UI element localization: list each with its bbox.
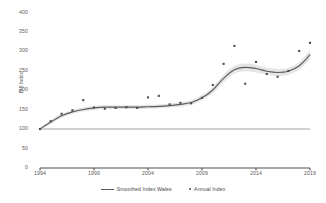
legend-item-annual: Annual Index <box>189 186 226 192</box>
data-point <box>244 83 246 85</box>
line-marker-icon <box>101 189 114 190</box>
data-point <box>233 45 235 47</box>
chart-legend: Smoothed Index Wales Annual Index <box>0 186 326 192</box>
chart-container: BIS Index 400 350 300 250 200 150 100 50… <box>0 0 326 203</box>
data-point <box>39 128 41 130</box>
legend-item-smoothed: Smoothed Index Wales <box>101 186 172 192</box>
data-point <box>147 96 149 98</box>
confidence-band <box>40 50 310 130</box>
data-point <box>61 113 63 115</box>
data-point <box>277 76 279 78</box>
annual-index-points <box>39 42 311 130</box>
data-point <box>82 99 84 101</box>
data-point <box>190 102 192 104</box>
data-point <box>309 42 311 44</box>
smoothed-index-line <box>40 55 310 129</box>
data-point <box>212 84 214 86</box>
x-axis <box>40 168 310 171</box>
data-point <box>158 95 160 97</box>
data-point <box>169 103 171 105</box>
legend-label-annual: Annual Index <box>194 186 225 192</box>
data-point <box>255 61 257 63</box>
dot-marker-icon <box>189 188 191 190</box>
data-point <box>201 97 203 99</box>
data-point <box>136 107 138 109</box>
data-point <box>223 63 225 65</box>
data-point <box>115 107 117 109</box>
data-point <box>298 50 300 52</box>
data-point <box>50 120 52 122</box>
data-point <box>71 109 73 111</box>
data-point <box>266 73 268 75</box>
data-point <box>287 70 289 72</box>
plot-area <box>0 0 326 203</box>
data-point <box>93 107 95 109</box>
data-point <box>104 108 106 110</box>
data-point <box>179 102 181 104</box>
data-point <box>125 106 127 108</box>
legend-label-smoothed: Smoothed Index Wales <box>117 186 172 192</box>
